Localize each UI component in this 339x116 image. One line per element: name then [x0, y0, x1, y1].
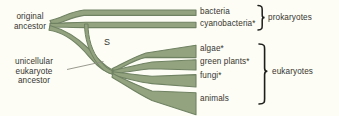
original-ancestor-label: original ancestor — [2, 12, 58, 31]
unicellular-eukaryote-ancestor-label: unicellular eukaryote ancestor — [2, 57, 66, 86]
group-label-eukaryotes: eukaryotes — [272, 67, 313, 77]
branch-cyanobacteria — [50, 22, 196, 27]
unicellular-ancestor-line-3: ancestor — [2, 76, 66, 86]
tip-label-fungi: fungi* — [200, 71, 222, 81]
tip-label-algae: algae* — [200, 44, 224, 54]
bracket-eukaryotes — [259, 44, 267, 104]
symbiosis-marker-label: S — [104, 38, 110, 48]
unicellular-ancestor-line-2: eukaryote — [2, 67, 66, 77]
bracket-prokaryotes — [258, 6, 265, 31]
tip-label-animals: animals — [200, 94, 229, 104]
phylogenetic-tree-figure: original ancestor unicellular eukaryote … — [0, 0, 339, 116]
tip-label-green-plants: green plants* — [200, 57, 250, 67]
tip-label-cyanobacteria: cyanobacteria* — [200, 19, 256, 29]
unicellular-ancestor-line-1: unicellular — [2, 57, 66, 67]
group-label-prokaryotes: prokaryotes — [268, 13, 312, 23]
original-ancestor-line-2: ancestor — [2, 22, 58, 32]
original-ancestor-line-1: original — [2, 12, 58, 22]
tip-label-bacteria: bacteria — [200, 7, 230, 17]
